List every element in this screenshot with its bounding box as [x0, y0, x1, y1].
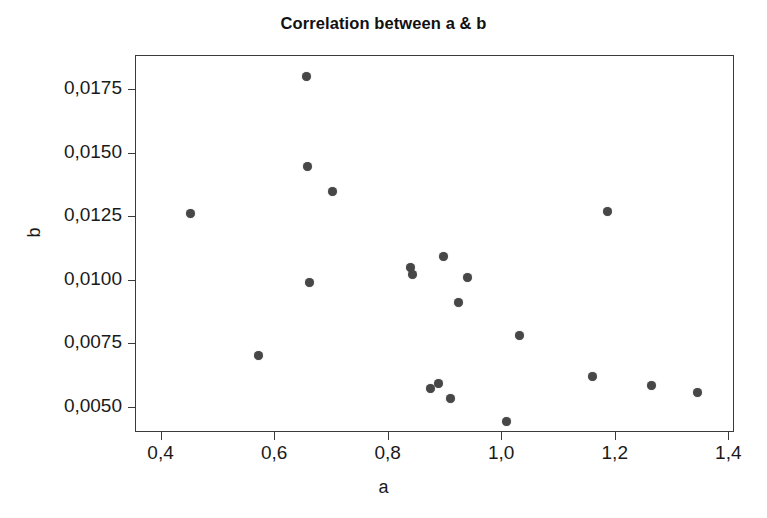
y-axis-tick [128, 89, 136, 90]
y-axis-tick-label: 0,0125 [0, 204, 122, 226]
x-axis-tick [161, 432, 162, 440]
y-axis-tick [128, 280, 136, 281]
x-axis-tick-label: 0,4 [121, 442, 201, 464]
y-axis-tick [128, 343, 136, 344]
x-axis-tick-label: 1,0 [461, 442, 541, 464]
scatter-plot-figure: Correlation between a & b 0,00500,00750,… [0, 0, 767, 518]
y-axis-tick [128, 407, 136, 408]
plot-frame [135, 55, 734, 432]
x-axis-tick [501, 432, 502, 440]
x-axis-tick [728, 432, 729, 440]
y-axis-tick-label: 0,0150 [0, 141, 122, 163]
chart-title: Correlation between a & b [0, 14, 767, 33]
x-axis-tick-label: 1,4 [688, 442, 767, 464]
y-axis-tick-label: 0,0075 [0, 331, 122, 353]
x-axis-tick [615, 432, 616, 440]
y-axis-tick-label: 0,0100 [0, 268, 122, 290]
y-axis-label: b [24, 193, 45, 273]
x-axis-label: a [0, 477, 767, 498]
y-axis-tick [128, 216, 136, 217]
x-axis-tick-label: 0,6 [234, 442, 314, 464]
x-axis-tick [388, 432, 389, 440]
x-axis-tick-label: 0,8 [348, 442, 428, 464]
x-axis-tick-label: 1,2 [575, 442, 655, 464]
x-axis-tick [274, 432, 275, 440]
y-axis-tick [128, 153, 136, 154]
y-axis-tick-label: 0,0050 [0, 395, 122, 417]
y-axis-tick-label: 0,0175 [0, 77, 122, 99]
